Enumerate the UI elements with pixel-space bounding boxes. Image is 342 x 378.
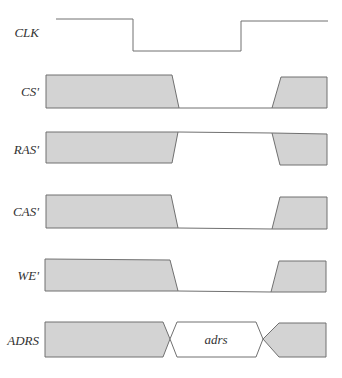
we-high-segment bbox=[45, 259, 178, 291]
timing-diagram: CLK CS' RAS' CAS' WE' ADRS adrs bbox=[0, 0, 342, 378]
signal-label-ras: RAS' bbox=[13, 142, 39, 157]
cas-low-segment bbox=[178, 228, 272, 229]
cs-high-segment-2 bbox=[272, 77, 327, 108]
cs-high-segment bbox=[46, 75, 179, 108]
signal-cs: CS' bbox=[21, 75, 327, 108]
adrs-invalid-segment bbox=[45, 322, 170, 357]
signal-clk: CLK bbox=[14, 19, 328, 51]
we-high-segment-2 bbox=[271, 261, 326, 292]
signal-ras: RAS' bbox=[13, 132, 327, 165]
signal-label-we: WE' bbox=[17, 268, 39, 283]
we-low-segment bbox=[178, 291, 271, 292]
ras-high-segment bbox=[178, 132, 272, 133]
adrs-value-label: adrs bbox=[204, 332, 227, 347]
cas-high-segment bbox=[46, 195, 178, 228]
ras-valid-segment bbox=[46, 132, 178, 163]
signal-label-cas: CAS' bbox=[13, 204, 39, 219]
clk-waveform bbox=[56, 19, 328, 51]
signal-adrs: ADRS adrs bbox=[6, 322, 326, 357]
signal-cas: CAS' bbox=[13, 195, 327, 229]
adrs-invalid-segment-2 bbox=[263, 323, 326, 357]
ras-valid-segment-2 bbox=[272, 133, 327, 165]
signal-label-clk: CLK bbox=[14, 25, 40, 40]
signal-we: WE' bbox=[17, 259, 326, 292]
signal-label-cs: CS' bbox=[21, 84, 39, 99]
signal-label-adrs: ADRS bbox=[6, 333, 39, 348]
cas-high-segment-2 bbox=[272, 197, 327, 229]
